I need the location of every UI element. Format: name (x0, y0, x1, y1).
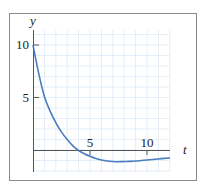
y-tick-label: 5 (23, 90, 30, 105)
y-tick-label: 10 (16, 37, 29, 52)
chart: 510510 t y (0, 0, 212, 186)
x-tick-label: 5 (87, 135, 94, 150)
y-axis-label: y (28, 13, 36, 28)
x-axis-label: t (183, 142, 187, 157)
x-tick-label: 10 (141, 135, 154, 150)
